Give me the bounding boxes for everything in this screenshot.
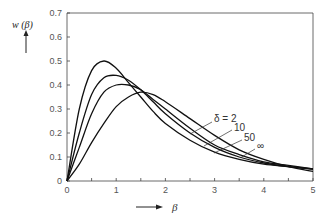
y-axis-label: w (β): [12, 19, 33, 31]
x-tick-label: 1: [114, 185, 119, 195]
annotations: δ = 21050∞: [190, 113, 264, 158]
y-tick-label: 0.2: [49, 128, 62, 138]
series-lines: [67, 61, 313, 181]
series-annotation: 50: [244, 132, 256, 143]
series-annotation: ∞: [257, 140, 264, 151]
y-tick-label: 0.1: [49, 152, 62, 162]
y-tick-label: 0.5: [49, 56, 62, 66]
series-line: [67, 92, 313, 181]
x-axis-label: β: [171, 201, 178, 213]
x-tick-label: 0: [64, 185, 69, 195]
y-tick-label: 0: [57, 176, 62, 186]
y-arrow-icon: [24, 30, 29, 53]
chart: 00.10.20.30.40.50.60.7012345 δ = 21050∞ …: [0, 0, 329, 223]
plot-frame: [67, 13, 313, 181]
x-arrow-icon: [136, 205, 163, 210]
x-tick-label: 5: [310, 185, 315, 195]
y-tick-label: 0.7: [49, 8, 62, 18]
x-tick-label: 4: [261, 185, 266, 195]
y-tick-label: 0.4: [49, 80, 62, 90]
y-tick-label: 0.6: [49, 32, 62, 42]
y-tick-label: 0.3: [49, 104, 62, 114]
x-tick-label: 3: [212, 185, 217, 195]
x-tick-label: 2: [163, 185, 168, 195]
